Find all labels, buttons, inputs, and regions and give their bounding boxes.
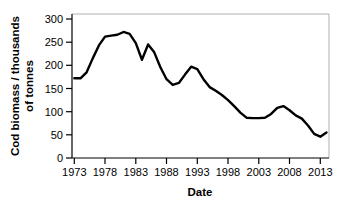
x-axis-title: Date [188, 186, 213, 198]
x-tick-label: 1978 [93, 166, 117, 178]
y-axis-ticks [66, 19, 72, 158]
y-axis-title-line2: of tonnes [23, 60, 35, 112]
x-tick-label: 1983 [124, 166, 148, 178]
y-axis-title-line1: Cod biomass / thousands [9, 16, 21, 156]
x-tick-label: 1988 [154, 166, 178, 178]
x-tick-label: 2008 [277, 166, 301, 178]
x-tick-label: 2013 [308, 166, 332, 178]
y-tick-label: 150 [45, 83, 63, 95]
y-tick-label: 200 [45, 59, 63, 71]
x-tick-label: 1998 [216, 166, 240, 178]
y-tick-label: 100 [45, 106, 63, 118]
y-tick-labels: 0 50 100 150 200 250 300 [45, 13, 63, 164]
x-tick-labels: 1973 1978 1983 1988 1993 1998 2003 2008 … [62, 166, 332, 178]
chart-figure: 0 50 100 150 200 250 300 1973 1978 1983 … [0, 0, 338, 202]
y-tick-label: 0 [57, 152, 63, 164]
x-tick-label: 2003 [247, 166, 271, 178]
x-tick-label: 1973 [62, 166, 86, 178]
cod-biomass-line-chart: 0 50 100 150 200 250 300 1973 1978 1983 … [0, 0, 338, 202]
y-tick-label: 250 [45, 36, 63, 48]
y-tick-label: 50 [51, 129, 63, 141]
x-axis-ticks [74, 158, 320, 164]
y-tick-label: 300 [45, 13, 63, 25]
cod-biomass-series-line [74, 32, 326, 137]
x-tick-label: 1993 [185, 166, 209, 178]
